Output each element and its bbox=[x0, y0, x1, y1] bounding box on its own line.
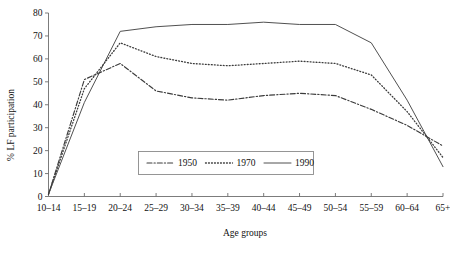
y-tick-label: 10 bbox=[33, 169, 43, 179]
x-tick-label: 40–44 bbox=[252, 203, 276, 213]
y-tick-label: 40 bbox=[33, 100, 43, 110]
legend-label-1990: 1990 bbox=[295, 158, 314, 168]
legend-label-1970: 1970 bbox=[237, 158, 256, 168]
x-tick-label: 50–54 bbox=[324, 203, 348, 213]
y-tick-label: 30 bbox=[33, 123, 43, 133]
y-tick-label: 80 bbox=[33, 8, 43, 18]
x-tick-label: 45–49 bbox=[288, 203, 312, 213]
x-tick-label: 35–39 bbox=[216, 203, 240, 213]
x-tick-label: 55–59 bbox=[359, 203, 383, 213]
legend-label-1950: 1950 bbox=[178, 158, 197, 168]
chart-background bbox=[0, 0, 450, 254]
x-tick-label: 20–24 bbox=[108, 203, 132, 213]
x-tick-label: 15–19 bbox=[72, 203, 96, 213]
x-tick-label: 60–64 bbox=[395, 203, 419, 213]
y-axis-label: % LF participation bbox=[6, 89, 16, 161]
y-tick-label: 0 bbox=[38, 192, 43, 202]
y-tick-label: 20 bbox=[33, 146, 43, 156]
x-tick-label: 25–29 bbox=[144, 203, 168, 213]
x-tick-label: 65+ bbox=[436, 203, 450, 213]
x-tick-label: 10–14 bbox=[37, 203, 61, 213]
x-tick-label: 30–34 bbox=[180, 203, 204, 213]
chart-canvas: % LF participation 01020304050607080 10–… bbox=[0, 0, 450, 254]
y-axis-tick-labels: 01020304050607080 bbox=[33, 8, 43, 202]
y-tick-label: 60 bbox=[33, 54, 43, 64]
line-chart: % LF participation 01020304050607080 10–… bbox=[0, 0, 450, 254]
chart-legend: 195019701990 bbox=[139, 152, 315, 175]
y-tick-label: 50 bbox=[33, 77, 43, 87]
x-axis-label: Age groups bbox=[223, 228, 267, 238]
y-tick-label: 70 bbox=[33, 31, 43, 41]
